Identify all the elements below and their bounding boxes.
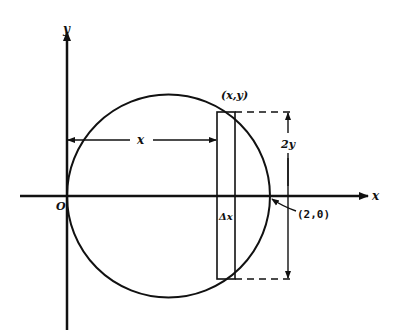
top-point-label: (x,y) (221, 89, 248, 102)
point-label: (2,0) (297, 208, 330, 221)
x-axis-label: x (371, 189, 380, 203)
diagram-canvas: y x O x (x,y) 2y Δx (2,0) (0, 0, 395, 336)
distance-label: x (136, 133, 145, 147)
point-pointer (272, 199, 296, 211)
height-label: 2y (280, 138, 297, 151)
y-axis-label: y (62, 22, 71, 36)
origin-label: O (56, 200, 66, 213)
width-label: Δx (218, 211, 234, 222)
